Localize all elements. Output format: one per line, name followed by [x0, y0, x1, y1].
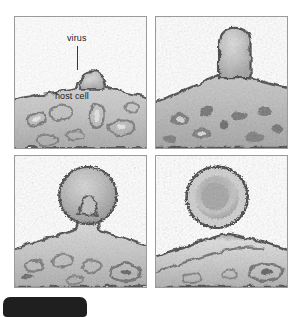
panel-4-graphic [156, 156, 287, 287]
bottom-caption-chip [3, 297, 87, 317]
virus-label: virus [67, 33, 87, 43]
micrograph-panel-grid: virus host cell [14, 16, 288, 288]
panel-2-graphic [156, 17, 287, 148]
top-cut-off-caption [0, 0, 301, 3]
panel-3 [14, 155, 147, 288]
panel-2-image [156, 17, 287, 148]
panel-1: virus host cell [14, 16, 147, 149]
virus-leader-line [77, 46, 78, 70]
panel-2 [155, 16, 288, 149]
panel-1-image: virus host cell [15, 17, 146, 148]
panel-3-graphic [15, 156, 146, 287]
panel-3-image [15, 156, 146, 287]
panel-4-image [156, 156, 287, 287]
host-cell-label: host cell [55, 91, 89, 101]
panel-4 [155, 155, 288, 288]
